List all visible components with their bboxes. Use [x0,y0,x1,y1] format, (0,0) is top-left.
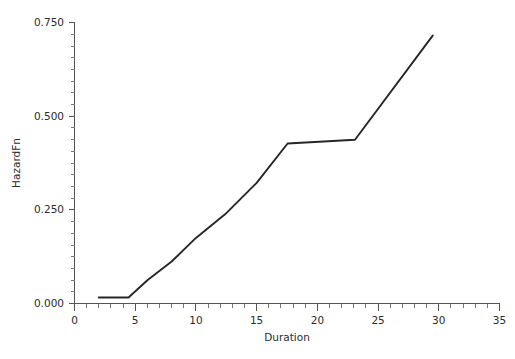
y-axis-title: HazardFn [10,138,22,188]
chart-canvas: 0.000 0.250 0.500 0.750 0 5 10 15 20 25 … [0,0,515,359]
x-tick-label-2: 10 [189,314,202,326]
x-axis-major-ticks [75,304,500,311]
y-tick-label-3: 0.750 [34,16,64,28]
x-axis-tick-labels: 0 5 10 15 20 25 30 35 [71,314,506,326]
y-axis-tick-labels: 0.000 0.250 0.500 0.750 [34,16,64,309]
hazard-function-line [99,36,433,298]
x-tick-label-5: 25 [371,314,384,326]
x-tick-label-0: 0 [71,314,78,326]
x-axis-title: Duration [264,331,310,343]
x-tick-label-3: 15 [250,314,263,326]
hazard-function-chart: 0.000 0.250 0.500 0.750 0 5 10 15 20 25 … [0,0,515,359]
x-tick-label-1: 5 [132,314,139,326]
x-tick-label-4: 20 [311,314,324,326]
y-tick-label-0: 0.000 [34,297,64,309]
y-tick-label-1: 0.250 [34,203,64,215]
x-tick-label-6: 30 [432,314,445,326]
x-tick-label-7: 35 [493,314,506,326]
y-tick-label-2: 0.500 [34,110,64,122]
y-axis-minor-ticks [71,34,75,292]
x-axis-minor-ticks [87,304,488,308]
